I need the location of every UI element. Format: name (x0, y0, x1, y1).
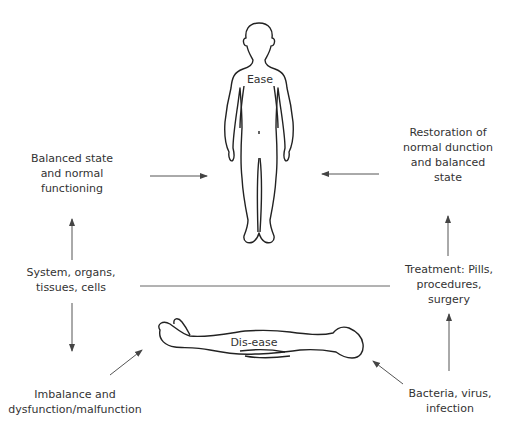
balanced-state-label: Balanced state and normal functioning (12, 151, 132, 196)
treatment-label: Treatment: Pills, procedures, surgery (393, 262, 505, 307)
diagram-graphics (0, 0, 512, 431)
arrow-imbalance-to-disease (110, 350, 142, 375)
bacteria-label: Bacteria, virus, infection (400, 386, 500, 416)
ease-label: Ease (246, 73, 274, 86)
diagram-canvas: Ease Dis-ease Balanced state and normal … (0, 0, 512, 431)
disease-label: Dis-ease (224, 336, 284, 349)
system-organs-label: System, organs, tissues, cells (6, 265, 136, 295)
restoration-label: Restoration of normal dunction and balan… (388, 125, 508, 185)
imbalance-label: Imbalance and dysfunction/malfunction (5, 387, 145, 417)
arrow-bacteria-to-disease (373, 361, 403, 384)
standing-human-figure-icon (225, 23, 294, 243)
